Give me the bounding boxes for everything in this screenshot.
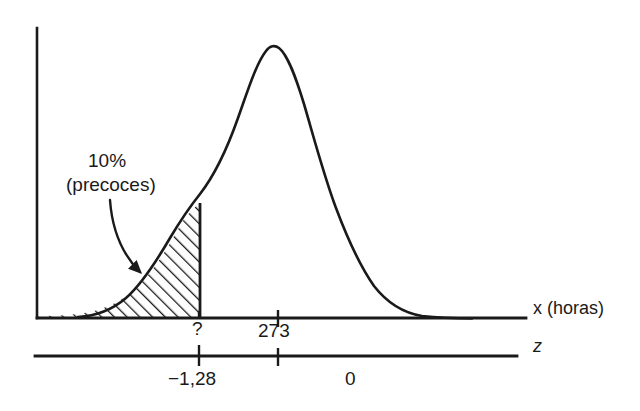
label-z-mean-value: 0 xyxy=(345,368,356,390)
shaded-tail-region xyxy=(30,190,210,325)
label-ten-percent: 10% xyxy=(88,150,126,172)
normal-distribution-diagram xyxy=(0,0,640,411)
label-z-axis: z xyxy=(533,336,542,357)
annotation-arrow xyxy=(110,200,140,272)
figure-canvas: 10% (precoces) ? 273 x (horas) z −1,28 0 xyxy=(0,0,640,411)
label-x-axis: x (horas) xyxy=(533,298,604,319)
label-precoces: (precoces) xyxy=(66,174,156,196)
label-z-cutoff-value: −1,28 xyxy=(168,368,216,390)
label-unknown-x-value: ? xyxy=(192,318,203,340)
label-mean-x-value: 273 xyxy=(258,320,290,342)
